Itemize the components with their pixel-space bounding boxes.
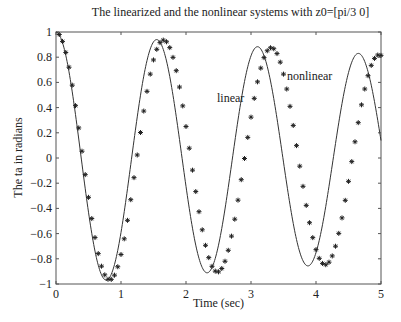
- y-tick-label: −1: [39, 277, 52, 291]
- y-tick-label: −0.2: [30, 176, 52, 190]
- annotation-nonlinear: nonlinear: [287, 69, 332, 84]
- x-axis-label: Time (sec): [56, 296, 381, 311]
- y-tick-label: −0.8: [30, 252, 52, 266]
- y-tick-label: −0.6: [30, 227, 52, 241]
- y-tick-label: 0.8: [37, 50, 52, 64]
- y-tick-label: 0: [46, 151, 52, 165]
- y-tick-label: 0.6: [37, 75, 52, 89]
- y-tick-label: −0.4: [30, 201, 52, 215]
- series-nonlinear-markers: [57, 32, 384, 282]
- annotation-linear: linear: [217, 91, 244, 106]
- plot-area: 01234510.80.60.40.20−0.2−0.4−0.6−0.8−1: [0, 0, 401, 322]
- y-tick-label: 0.2: [37, 126, 52, 140]
- y-axis-label: The ta in radians: [11, 98, 26, 218]
- y-tick-label: 0.4: [37, 101, 52, 115]
- y-tick-label: 1: [46, 25, 52, 39]
